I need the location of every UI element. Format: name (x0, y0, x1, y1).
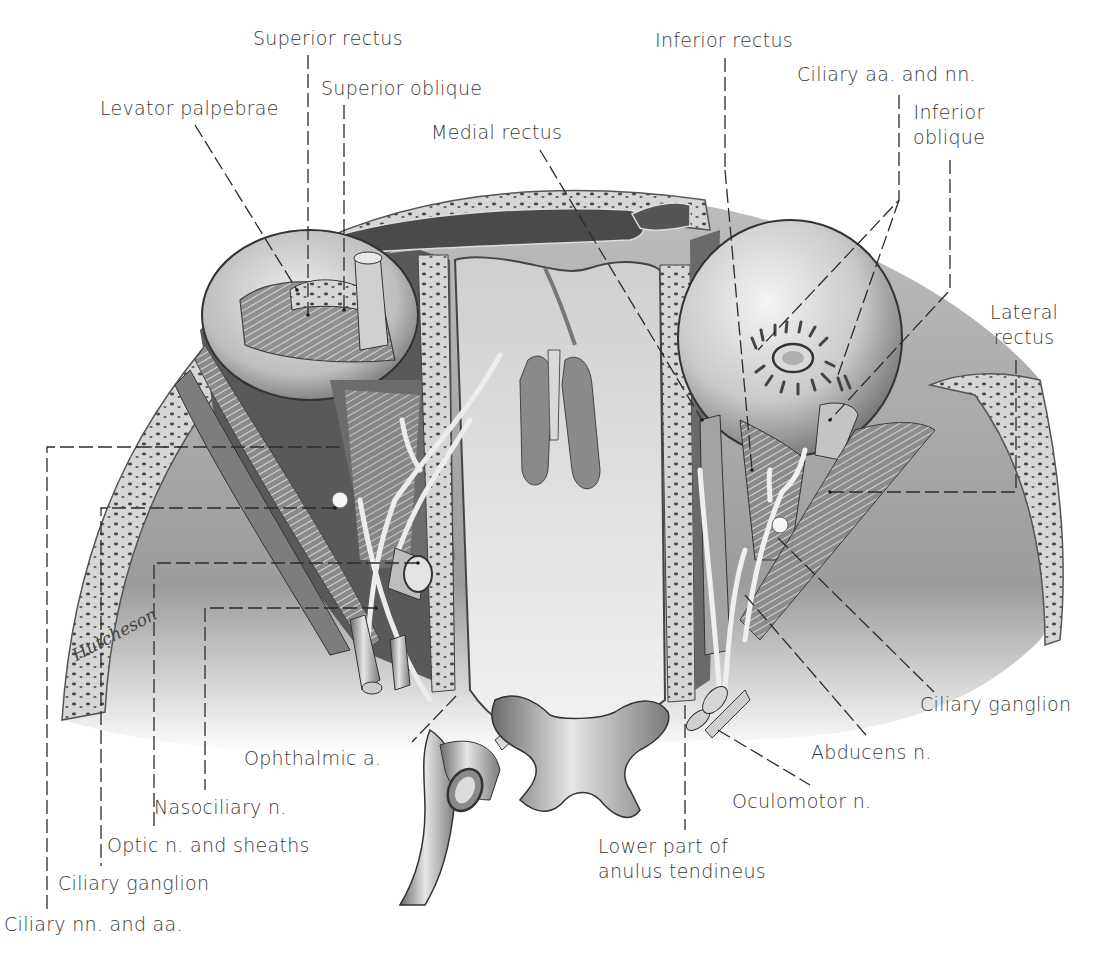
label-ophthalmic-a: Ophthalmic a. (244, 746, 381, 771)
anatomy-figure: Superior rectus Superior oblique Levator… (0, 0, 1095, 957)
label-nasociliary-n: Nasociliary n. (154, 795, 287, 820)
label-ciliary-aa-and-nn: Ciliary aa. and nn. (797, 62, 976, 87)
label-ciliary-nn-and-aa: Ciliary nn. and aa. (4, 912, 183, 937)
label-optic-n-and-sheaths: Optic n. and sheaths (107, 833, 310, 858)
label-oculomotor-n: Oculomotor n. (732, 789, 871, 814)
label-superior-oblique: Superior oblique (321, 76, 482, 101)
label-abducens-n: Abducens n. (811, 740, 932, 765)
ciliary-ganglion-left (332, 492, 348, 508)
nasal-turbinate-1 (520, 356, 552, 485)
label-inferior-oblique: Inferior oblique (913, 100, 985, 150)
nasal-cavity (455, 257, 665, 740)
label-ciliary-ganglion-left: Ciliary ganglion (58, 871, 209, 896)
ciliary-ganglion-right (772, 517, 788, 533)
label-superior-rectus: Superior rectus (253, 26, 403, 51)
label-lower-part-of-anulus-tendineus: Lower part of anulus tendineus (598, 834, 766, 884)
label-ciliary-ganglion-right: Ciliary ganglion (920, 692, 1071, 717)
label-medial-rectus: Medial rectus (431, 120, 562, 145)
label-lateral-rectus: Lateral rectus (990, 300, 1058, 350)
label-levator-palpebrae: Levator palpebrae (100, 96, 279, 121)
label-inferior-rectus: Inferior rectus (655, 28, 793, 53)
